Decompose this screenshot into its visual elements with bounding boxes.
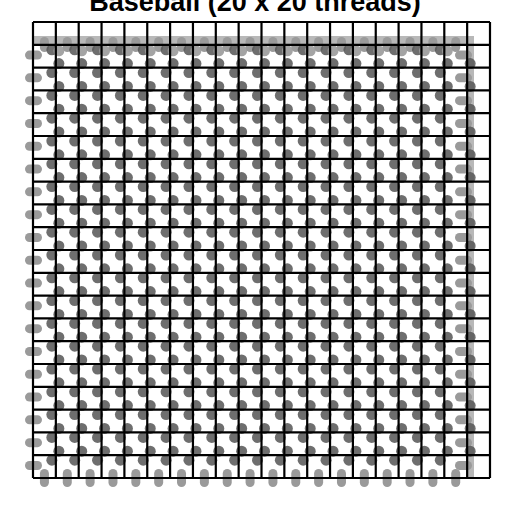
grid-lines: [33, 22, 490, 478]
thread-capsules: [25, 37, 472, 487]
right-thread-capsule: [455, 461, 472, 470]
baseball-thread-grid: [0, 0, 510, 512]
